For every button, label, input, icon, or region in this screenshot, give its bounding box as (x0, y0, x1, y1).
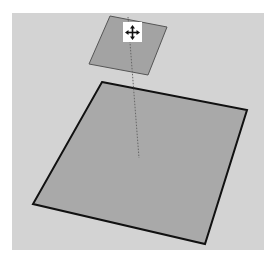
rectangle-face[interactable] (33, 82, 247, 244)
move-tool-cursor (123, 22, 142, 42)
move-icon (125, 25, 140, 40)
